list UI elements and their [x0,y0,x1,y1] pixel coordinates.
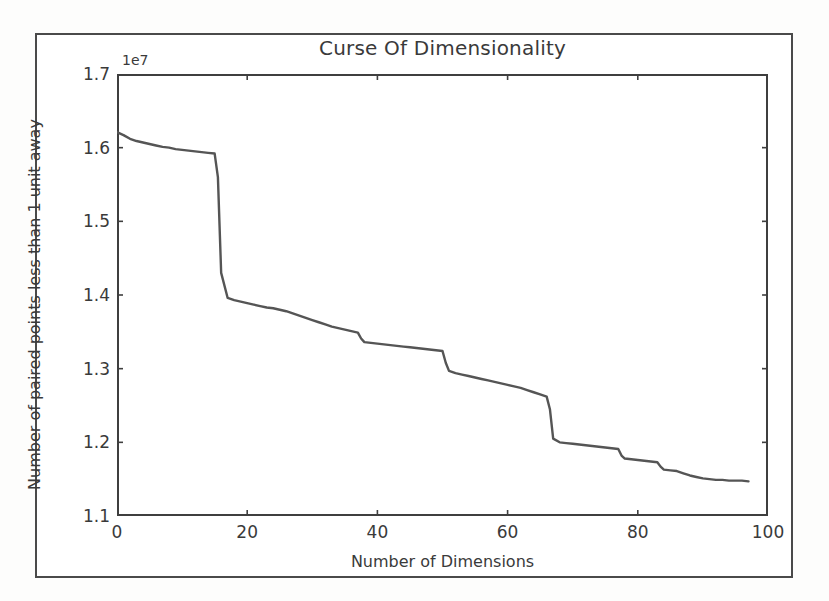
y-axis-offset-label: 1e7 [122,52,148,68]
x-axis-tick-labels: 020406080100 [0,522,829,552]
x-tick-label: 40 [367,522,389,542]
data-series-line [117,132,748,481]
x-tick-label: 20 [236,522,258,542]
x-tick-label: 100 [752,522,784,542]
y-tick-label: 1.2 [66,432,110,452]
axis-tick-marks [117,74,768,516]
x-axis-title: Number of Dimensions [117,552,768,571]
plot-area [117,74,768,516]
y-tick-label: 1.3 [66,359,110,379]
y-tick-label: 1.4 [66,285,110,305]
x-tick-label: 0 [112,522,123,542]
chart-title: Curse Of Dimensionality [117,36,768,60]
x-tick-label: 60 [497,522,519,542]
x-tick-label: 80 [627,522,649,542]
y-tick-label: 1.6 [66,138,110,158]
y-tick-label: 1.7 [66,64,110,84]
figure-page: Curse Of Dimensionality 1e7 1.11.21.31.4… [0,0,829,601]
y-tick-label: 1.5 [66,211,110,231]
y-axis-title: Number of paired points less than 1 unit… [25,85,44,525]
y-axis-tick-labels: 1.11.21.31.41.51.61.7 [62,0,110,601]
